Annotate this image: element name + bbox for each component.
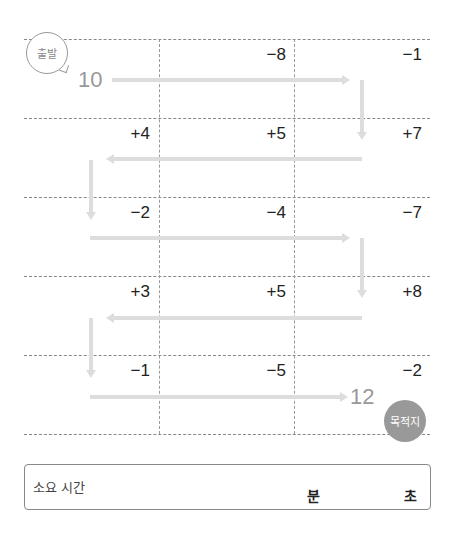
cell-value: −1 — [90, 361, 150, 381]
arrow-left-icon — [106, 154, 114, 164]
path-arrow — [114, 316, 362, 320]
cell-value: −8 — [226, 45, 286, 65]
time-taken-label: 소요 시간 — [33, 477, 85, 496]
cell-value: −2 — [90, 203, 150, 223]
cell-value: −2 — [362, 361, 422, 381]
path-arrow — [360, 80, 364, 132]
cell-value: −7 — [362, 203, 422, 223]
path-arrow — [90, 236, 342, 240]
arrow-right-icon — [342, 233, 350, 243]
cell-value: +5 — [226, 282, 286, 302]
cell-value: +5 — [226, 124, 286, 144]
path-arrow — [112, 78, 342, 82]
arrow-right-icon — [340, 392, 348, 402]
destination-value: 12 — [350, 384, 374, 410]
cell-value: +4 — [90, 124, 150, 144]
path-arrow — [90, 395, 340, 399]
start-value: 10 — [78, 67, 102, 93]
path-arrow — [89, 318, 93, 370]
grid-line — [24, 118, 430, 119]
arrow-right-icon — [342, 75, 350, 85]
start-bubble: 출발 — [26, 32, 68, 74]
grid-line — [24, 276, 430, 277]
seconds-unit: 초 — [404, 485, 417, 505]
cell-value: −5 — [226, 361, 286, 381]
cell-value: +8 — [362, 282, 422, 302]
grid-line — [24, 197, 430, 198]
arrow-down-icon — [357, 132, 367, 140]
cell-value: −1 — [362, 45, 422, 65]
cell-value: +3 — [90, 282, 150, 302]
minutes-unit: 분 — [307, 485, 320, 505]
cell-value: +7 — [362, 124, 422, 144]
path-arrow — [89, 160, 93, 212]
arrow-down-icon — [357, 290, 367, 298]
arrow-left-icon — [106, 313, 114, 323]
grid-line — [24, 355, 430, 356]
path-arrow — [114, 157, 362, 161]
destination-badge: 목적지 — [384, 400, 426, 442]
cell-value: −4 — [226, 203, 286, 223]
arrow-down-icon — [86, 370, 96, 378]
arrow-down-icon — [86, 212, 96, 220]
grid-line — [24, 434, 430, 435]
time-taken-box: 소요 시간 분 초 — [24, 464, 431, 510]
grid-line — [24, 39, 430, 40]
path-arrow — [360, 238, 364, 290]
